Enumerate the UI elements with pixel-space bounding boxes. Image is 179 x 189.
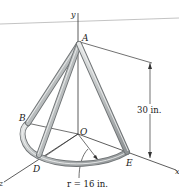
dim-extension-top: [80, 42, 152, 63]
cone-rod-diagram: y A B O D E z x 30 in. r = 16 in.: [0, 0, 179, 189]
point-a-label: A: [81, 33, 89, 43]
point-o-label: O: [80, 127, 88, 137]
point-b-label: B: [18, 113, 26, 123]
radius-dimension-label: r = 16 in.: [67, 179, 108, 189]
reference-line: [0, 18, 179, 24]
dim-arrow-top-icon: [148, 63, 152, 69]
radius-arrow-icon: [93, 155, 98, 160]
height-dimension-label: 30 in.: [137, 105, 161, 115]
y-axis-label: y: [70, 10, 76, 19]
point-d-label: D: [32, 164, 40, 174]
x-axis-label: x: [175, 167, 179, 176]
dim-arrow-bottom-icon: [148, 152, 152, 158]
z-axis-label: z: [0, 179, 4, 188]
od-line: [44, 134, 78, 157]
point-e-label: E: [125, 158, 133, 168]
